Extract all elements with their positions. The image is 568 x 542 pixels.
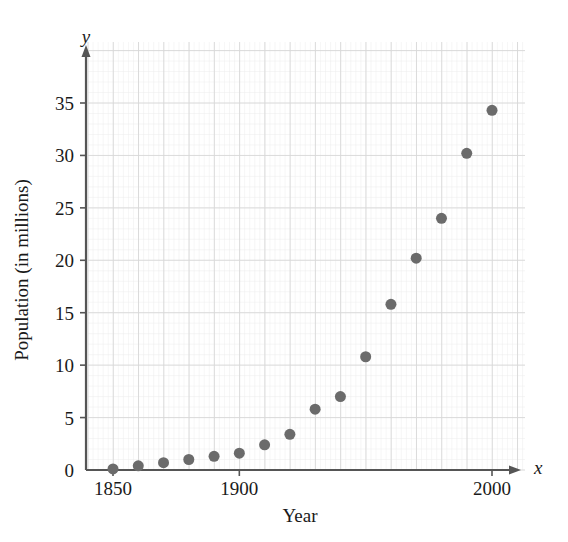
y-axis-tick-labels: 05101520253035: [55, 93, 74, 481]
data-point: [385, 299, 396, 310]
data-point: [461, 148, 472, 159]
grid-minor-lines: [88, 42, 525, 470]
data-point: [487, 105, 498, 116]
x-tick-label: 1850: [94, 478, 132, 499]
y-tick-label: 35: [55, 93, 74, 114]
y-tick-label: 20: [55, 250, 74, 271]
scatter-chart: 05101520253035 185019002000 x y Year Pop…: [0, 0, 568, 542]
data-point: [411, 253, 422, 264]
data-point: [335, 391, 346, 402]
data-point: [234, 448, 245, 459]
y-axis-letter: y: [80, 26, 91, 47]
y-axis-title: Population (in millions): [11, 179, 33, 361]
y-tick-label: 30: [55, 145, 74, 166]
data-points: [108, 105, 498, 475]
x-axis-letter: x: [533, 457, 543, 478]
axis-lines: [82, 45, 522, 475]
chart-canvas: 05101520253035 185019002000 x y Year Pop…: [0, 0, 568, 542]
data-point: [360, 351, 371, 362]
y-tick-label: 15: [55, 303, 74, 324]
data-point: [259, 439, 270, 450]
data-point: [436, 213, 447, 224]
y-tick-label: 10: [55, 355, 74, 376]
data-point: [209, 451, 220, 462]
x-axis-tick-labels: 185019002000: [94, 478, 511, 499]
x-tick-label: 2000: [473, 478, 511, 499]
x-axis-title: Year: [282, 505, 318, 526]
data-point: [284, 429, 295, 440]
data-point: [133, 460, 144, 471]
data-point: [310, 404, 321, 415]
y-tick-label: 25: [55, 198, 74, 219]
data-point: [108, 463, 119, 474]
x-tick-label: 1900: [220, 478, 258, 499]
y-tick-label: 5: [65, 408, 75, 429]
data-point: [183, 454, 194, 465]
data-point: [158, 457, 169, 468]
y-tick-label: 0: [65, 460, 75, 481]
